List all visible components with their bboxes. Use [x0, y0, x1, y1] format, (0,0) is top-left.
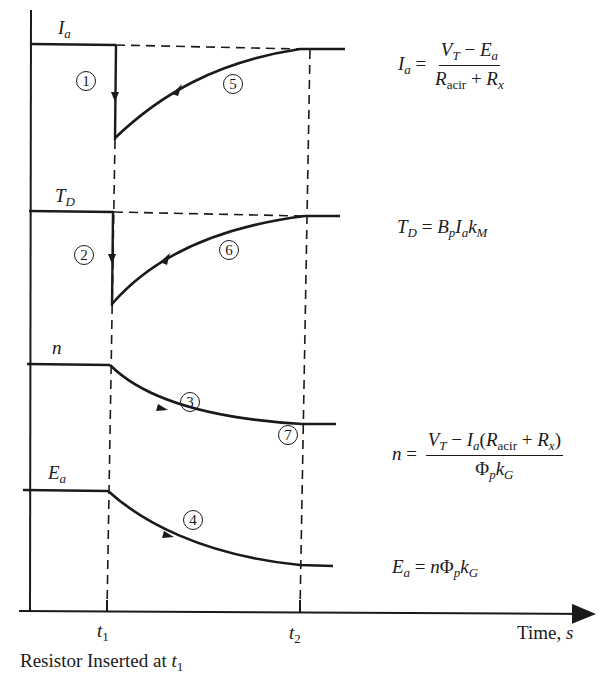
td-down-arrow: [108, 254, 116, 264]
ea-equation: Ea = nΦpkG: [392, 557, 478, 579]
td-initial-level: [29, 211, 114, 212]
ea-curve-label: Ea: [48, 463, 66, 485]
x-axis-title: Time, s: [517, 622, 573, 644]
ia-reference-dashed: [116, 45, 300, 49]
ea-decay-curve: [108, 491, 333, 566]
n-initial-level: [27, 364, 110, 365]
n-equation: n = VT − Ia(Racir + Rx) ΦpkG: [392, 430, 563, 481]
step-marker-6: 6: [219, 240, 239, 260]
ia-down-arrow: [111, 92, 119, 102]
t2-guide-line: [300, 50, 310, 611]
td-equation: TD = BpIakM: [397, 217, 487, 239]
n-curve-label: n: [52, 338, 62, 357]
figure-caption: Resistor Inserted at t1: [20, 650, 183, 675]
td-curve-label: TD: [55, 186, 75, 208]
t2-tick-label: t2: [289, 623, 301, 645]
x-axis: [19, 611, 592, 614]
step-marker-2: 2: [74, 245, 94, 265]
t1-tick-label: t1: [97, 621, 109, 643]
step-marker-1: 1: [76, 71, 96, 91]
ea-initial-level: [23, 490, 108, 491]
n-decay-curve: [110, 365, 336, 424]
ia-equation: Ia = VT − Ea Racir + Rx: [398, 40, 504, 91]
step-marker-3: 3: [180, 392, 200, 412]
y-axis: [30, 10, 31, 611]
transient-response-plot: [0, 0, 603, 682]
ia-initial-level: [31, 44, 116, 45]
step-marker-7: 7: [278, 425, 298, 445]
td-reference-dashed: [114, 212, 303, 216]
n-decay-arrow: [156, 404, 168, 411]
step-marker-5: 5: [223, 74, 243, 94]
step-marker-4: 4: [183, 510, 203, 530]
ia-curve-label: Ia: [58, 18, 71, 40]
